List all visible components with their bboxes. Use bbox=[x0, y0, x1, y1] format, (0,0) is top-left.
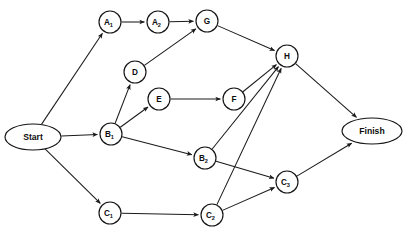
edge-b1-to-b2 bbox=[122, 137, 192, 155]
node-a2[interactable]: A2 bbox=[147, 11, 169, 33]
node-shape-c3 bbox=[276, 171, 298, 193]
node-shape-a1 bbox=[99, 11, 121, 33]
node-shape-g bbox=[196, 10, 218, 32]
node-start[interactable]: Start bbox=[5, 124, 61, 150]
node-h[interactable]: H bbox=[276, 45, 298, 67]
nodes-layer: StartA1A2GDEFHB1B2C1C2C3Finish bbox=[5, 10, 402, 226]
edge-g-to-h bbox=[218, 26, 275, 51]
node-g[interactable]: G bbox=[196, 10, 218, 32]
edge-d-to-g bbox=[144, 29, 196, 65]
node-shape-h bbox=[276, 45, 298, 67]
node-shape-start bbox=[5, 124, 61, 150]
node-shape-a2 bbox=[147, 11, 169, 33]
node-b2[interactable]: B2 bbox=[194, 147, 216, 169]
node-d[interactable]: D bbox=[124, 61, 146, 83]
node-finish[interactable]: Finish bbox=[342, 118, 402, 144]
edges-layer bbox=[42, 21, 357, 214]
edge-h-to-finish bbox=[296, 64, 357, 118]
node-shape-b2 bbox=[194, 147, 216, 169]
node-f[interactable]: F bbox=[223, 88, 245, 110]
node-shape-d bbox=[124, 61, 146, 83]
edge-b1-to-d bbox=[115, 85, 130, 124]
node-c1[interactable]: C1 bbox=[99, 202, 121, 224]
node-shape-e bbox=[148, 88, 170, 110]
node-c2[interactable]: C2 bbox=[201, 204, 223, 226]
node-shape-f bbox=[223, 88, 245, 110]
graph-canvas: StartA1A2GDEFHB1B2C1C2C3Finish bbox=[0, 0, 409, 245]
edge-b2-to-h bbox=[212, 67, 278, 149]
node-a1[interactable]: A1 bbox=[99, 11, 121, 33]
activity-network-diagram: StartA1A2GDEFHB1B2C1C2C3Finish bbox=[0, 0, 409, 245]
edge-b1-to-e bbox=[120, 107, 148, 127]
node-c3[interactable]: C3 bbox=[276, 171, 298, 193]
edge-c1-to-c2 bbox=[122, 213, 199, 215]
edge-start-to-b1 bbox=[61, 135, 97, 136]
node-shape-c1 bbox=[99, 202, 121, 224]
edge-start-to-c1 bbox=[45, 149, 100, 203]
node-shape-finish bbox=[342, 118, 402, 144]
node-shape-b1 bbox=[100, 123, 122, 145]
edge-c2-to-h bbox=[217, 68, 281, 204]
node-e[interactable]: E bbox=[148, 88, 170, 110]
node-shape-c2 bbox=[201, 204, 223, 226]
edge-c3-to-finish bbox=[297, 143, 352, 176]
edge-f-to-h bbox=[243, 65, 277, 92]
edge-c2-to-c3 bbox=[223, 187, 275, 210]
edge-start-to-a1 bbox=[42, 33, 103, 124]
node-b1[interactable]: B1 bbox=[100, 123, 122, 145]
edge-b2-to-c3 bbox=[216, 161, 274, 178]
